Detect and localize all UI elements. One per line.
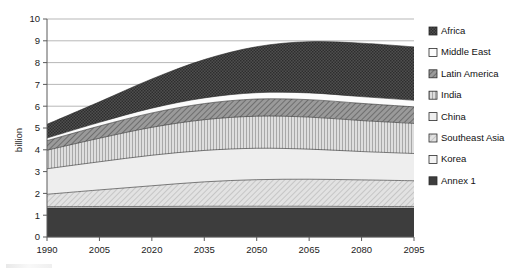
y-tick-label-3: 3 (35, 166, 40, 177)
y-tick-label-1: 1 (35, 210, 40, 221)
white-swatch (429, 48, 437, 56)
chart-canvas: 109876543210 199020052020203520502065208… (0, 0, 523, 274)
x-tick-label-2080: 2080 (351, 244, 372, 255)
y-tick-label-7: 7 (35, 79, 40, 90)
legend-item-africa[interactable]: Africa (429, 25, 466, 36)
y-tick-label-8: 8 (35, 57, 40, 68)
legend-label: Middle East (441, 46, 491, 57)
legend-item-china[interactable]: China (429, 111, 467, 122)
y-tick-label-4: 4 (35, 144, 40, 155)
page-artifact (6, 264, 52, 268)
y-tick-label-5: 5 (35, 122, 40, 133)
x-tick-label-2065: 2065 (299, 244, 320, 255)
mid-diagonal-swatch (429, 70, 437, 78)
x-tick-label-1990: 1990 (36, 244, 57, 255)
x-tick-label-2050: 2050 (246, 244, 267, 255)
legend-item-annex-1[interactable]: Annex 1 (429, 175, 476, 186)
y-tick-label-2: 2 (35, 188, 40, 199)
x-tick-label-2005: 2005 (89, 244, 110, 255)
legend-item-southeast-asia[interactable]: Southeast Asia (429, 132, 505, 143)
vertical-stripe-swatch (429, 91, 437, 99)
legend-label: Annex 1 (441, 175, 476, 186)
x-tick-label-2020: 2020 (141, 244, 162, 255)
population-projection-area-chart: 109876543210 199020052020203520502065208… (0, 0, 523, 274)
legend-item-india[interactable]: India (429, 89, 462, 100)
x-tick-label-2035: 2035 (194, 244, 215, 255)
legend-label: Korea (441, 153, 467, 164)
x-tick-label-2095: 2095 (403, 244, 424, 255)
y-tick-label-9: 9 (35, 35, 40, 46)
legend-label: India (441, 89, 462, 100)
legend-label: China (441, 111, 467, 122)
legend-label: Southeast Asia (441, 132, 505, 143)
legend-item-korea[interactable]: Korea (429, 153, 467, 164)
dark-checker-swatch (429, 27, 437, 35)
solid-dark-swatch (429, 177, 437, 185)
area-annex-1 (47, 208, 414, 237)
legend-label: Africa (441, 25, 466, 36)
pale-swatch (429, 155, 437, 163)
y-tick-label-6: 6 (35, 101, 40, 112)
legend-label: Latin America (441, 68, 499, 79)
y-tick-label-10: 10 (29, 13, 40, 24)
fine-diagonal-swatch (429, 134, 437, 142)
y-axis-title: billion (13, 128, 24, 152)
light-swatch (429, 113, 437, 121)
y-tick-label-0: 0 (35, 231, 40, 242)
